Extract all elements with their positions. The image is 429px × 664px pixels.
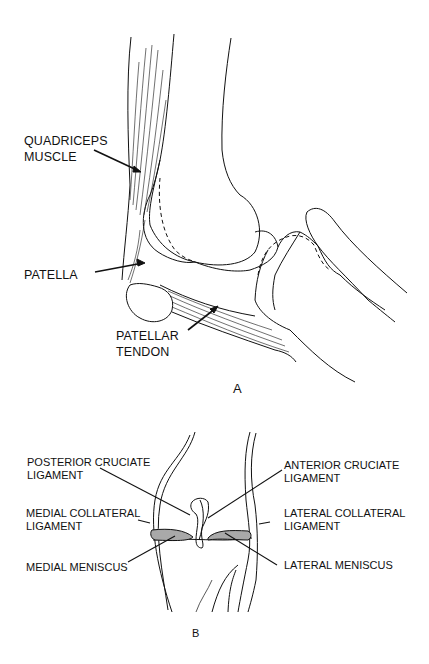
label-medial-meniscus: MEDIAL MENISCUS	[26, 561, 128, 574]
label-lateral-meniscus: LATERAL MENISCUS	[284, 559, 393, 572]
label-anterior-cruciate-line2: LIGAMENT	[284, 472, 340, 485]
figure-b-caption: B	[192, 627, 199, 639]
label-posterior-cruciate-line1: POSTERIOR CRUCIATE	[27, 456, 150, 469]
figure-a-caption: A	[233, 381, 242, 396]
label-quadriceps-muscle-line1: QUADRICEPS	[24, 134, 108, 149]
label-patellar-tendon-line1: PATELLAR	[116, 329, 179, 344]
label-medial-collateral-line2: LIGAMENT	[26, 520, 82, 533]
label-quadriceps-muscle-line2: MUSCLE	[24, 150, 77, 165]
label-patella: PATELLA	[24, 268, 78, 283]
label-anterior-cruciate-line1: ANTERIOR CRUCIATE	[284, 459, 399, 472]
label-lateral-collateral-line1: LATERAL COLLATERAL	[284, 507, 405, 520]
label-patellar-tendon-line2: TENDON	[116, 345, 169, 360]
label-posterior-cruciate-line2: LIGAMENT	[27, 469, 83, 482]
label-medial-collateral-line1: MEDIAL COLLATERAL	[26, 507, 140, 520]
label-lateral-collateral-line2: LIGAMENT	[284, 520, 340, 533]
